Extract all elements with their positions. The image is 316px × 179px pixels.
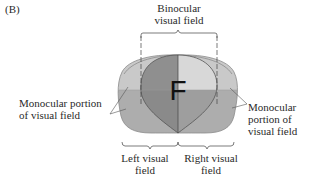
left-field-line-1: Left visual [110,152,180,164]
monocular-right-label: Monocular portion of visual field [248,101,314,137]
left-visual-field-label: Left visual field [110,152,180,176]
left-field-line-2: field [110,164,180,176]
binocular-brace [141,30,217,38]
right-field-line-1: Right visual [176,152,246,164]
left-field-brace [122,142,178,149]
right-visual-field-label: Right visual field [176,152,246,176]
binocular-label-line-2: visual field [140,14,218,26]
monocular-right-line-3: visual field [248,125,314,137]
binocular-field-label: Binocular visual field [140,2,218,26]
monocular-right-line-1: Monocular [248,101,314,113]
right-field-brace [178,142,234,149]
center-letter-F: F [169,75,186,106]
monocular-left-line-2: of visual field [19,109,109,121]
monocular-left-line-1: Monocular portion [19,97,109,109]
panel-label: (B) [5,3,20,15]
binocular-label-line-1: Binocular [140,2,218,14]
monocular-right-line-2: portion of [248,113,314,125]
right-field-line-2: field [176,164,246,176]
monocular-left-label: Monocular portion of visual field [19,97,109,121]
